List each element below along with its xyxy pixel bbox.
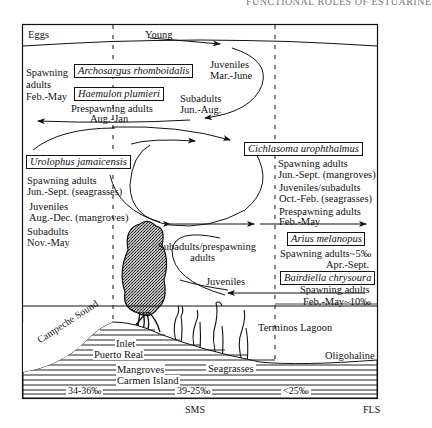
label-subadults-prespawning: Subadults/prespawning <box>158 241 256 252</box>
label-bair-spawning: Spawning adults <box>300 284 370 295</box>
arrow-inner-loop <box>131 140 195 144</box>
label-aug-jan: Aug.-Jan <box>90 113 128 124</box>
label-young: Young <box>145 29 173 40</box>
species-cichlasoma: Cichlasoma urophthalmus <box>244 142 363 156</box>
label-oligohaline: Oligohaline <box>325 350 375 361</box>
label-cich-jun-sept: Jun.-Sept. (mangroves) <box>278 169 376 180</box>
label-carmen-island: Carmen Island <box>116 375 180 386</box>
label-adults: adults <box>26 79 51 90</box>
salinity-left: 34-36‰ <box>66 386 103 396</box>
label-uro-aug-dec: Aug.-Dec. (mangroves) <box>29 212 128 223</box>
label-eggs: Eggs <box>28 29 49 40</box>
label-uro-nov-may: Nov.-May <box>27 237 70 248</box>
zone-label-fls: FLS <box>363 404 380 415</box>
label-bair-feb-may: Feb.-May~10‰ <box>303 296 371 307</box>
label-cich-feb-may: Feb.-May <box>279 216 320 227</box>
label-feb-may: Feb.-May <box>26 91 67 102</box>
label-inlet: Inlet <box>115 338 136 349</box>
label-cich-juveniles: Juveniles/subadults <box>279 182 361 193</box>
label-seagrasses: Seagrasses <box>206 363 256 374</box>
label-uro-spawning: Spawning adults <box>27 175 97 186</box>
species-bairdiella: Bairdiella chrysoura <box>280 271 375 285</box>
species-haemulon: Haemulon plumieri <box>74 87 164 101</box>
label-mangroves: Mangroves <box>116 364 165 375</box>
mangrove-tree-icon <box>122 221 166 315</box>
urolophus-arc <box>33 128 115 150</box>
label-uro-jun-sept: Jun.-Sept. (seagrasses) <box>27 186 122 197</box>
label-jun-aug: Jun.-Aug. <box>180 104 221 115</box>
life-stage-divider <box>23 40 377 46</box>
label-mar-june: Mar.-June <box>210 70 252 81</box>
salinity-right: <25‰ <box>281 386 311 396</box>
label-uro-juveniles: Juveniles <box>29 201 68 212</box>
running-title: FUNCTIONAL ROLES OF ESTUARINE <box>246 0 432 7</box>
cichlasoma-big-loop <box>130 145 263 226</box>
label-cich-spawning: Spawning adults <box>278 158 348 169</box>
salinity-middle: 39-25‰ <box>175 386 212 396</box>
label-cich-oct-feb: Oct.-Feb. (seagrasses) <box>279 193 372 204</box>
species-archosargus: Archosargus rhomboidalis <box>74 64 193 78</box>
species-urolophus: Urolophus jamaicensis <box>26 155 131 169</box>
label-puerto-real: Puerto Real <box>93 349 144 360</box>
label-spawning: Spawning <box>26 67 68 78</box>
label-subadults-prespawning-adults: adults <box>190 252 215 263</box>
label-terminos-lagoon: Terminos Lagoon <box>258 322 332 333</box>
label-arius-apr-sept: Apr.-Sept. <box>326 259 369 270</box>
label-uro-subadults: Subadults <box>27 226 68 237</box>
label-juveniles-top: Juveniles <box>210 59 249 70</box>
label-subadults-top: Subadults <box>180 93 221 104</box>
label-arius-spawning: Spawning adults~5‰ <box>280 248 371 259</box>
species-arius: Arius melanopus <box>287 232 365 246</box>
label-juveniles-bottom: Juveniles <box>206 276 245 287</box>
zone-label-sms: SMS <box>185 404 205 415</box>
arrow-to-cichlasoma <box>112 127 230 140</box>
